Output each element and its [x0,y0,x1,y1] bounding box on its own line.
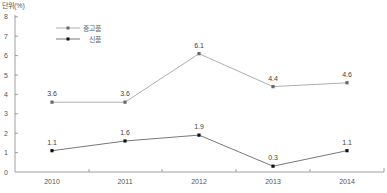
x-tick-label: 2011 [117,178,132,185]
y-tick-label: 6 [4,52,8,59]
data-point [123,139,126,142]
data-label: 4.4 [268,75,278,82]
unit-label: 단위(%) [2,1,25,10]
series-line-1 [52,135,347,166]
data-point [271,85,274,88]
x-tick-label: 2010 [44,178,60,185]
y-tick-label: 1 [4,149,8,156]
x-tick-label: 2012 [191,178,207,185]
y-tick-label: 3 [4,110,8,117]
y-tick-label: 8 [4,13,8,20]
data-label: 3.6 [47,90,57,97]
data-point [50,149,53,152]
data-point [197,52,200,55]
data-point [50,101,53,104]
legend-label: 신품 [89,35,102,43]
y-tick-label: 2 [4,130,8,137]
y-tick-label: 7 [4,33,8,40]
data-label: 3.6 [120,90,130,97]
data-point [123,101,126,104]
data-label: 1.9 [194,123,204,130]
data-label: 4.6 [342,71,352,78]
data-label: 6.1 [194,42,204,49]
series-group: 3.63.66.14.44.61.11.61.90.31.1 [47,42,352,168]
data-point [345,81,348,84]
data-label: 1.1 [342,139,352,146]
x-tick-label: 2013 [265,178,281,185]
data-label: 1.1 [47,139,57,146]
legend-label: 중고품 [83,25,102,32]
data-point [345,149,348,152]
x-tick-label: 2014 [339,178,355,185]
data-point [271,165,274,168]
legend: 중고품신품 [56,25,102,43]
y-tick-label: 5 [4,72,8,79]
y-tick-label: 4 [4,91,8,98]
data-label: 1.6 [120,129,130,136]
legend-marker [67,38,70,41]
chart-canvas: 단위(%) 01234567820102011201220132014 중고품신… [0,0,387,193]
series-line-0 [52,54,347,102]
legend-marker [67,27,70,30]
line-chart: 단위(%) 01234567820102011201220132014 중고품신… [0,0,387,193]
data-label: 0.3 [268,154,278,161]
y-tick-label: 0 [4,169,8,176]
data-point [197,134,200,137]
